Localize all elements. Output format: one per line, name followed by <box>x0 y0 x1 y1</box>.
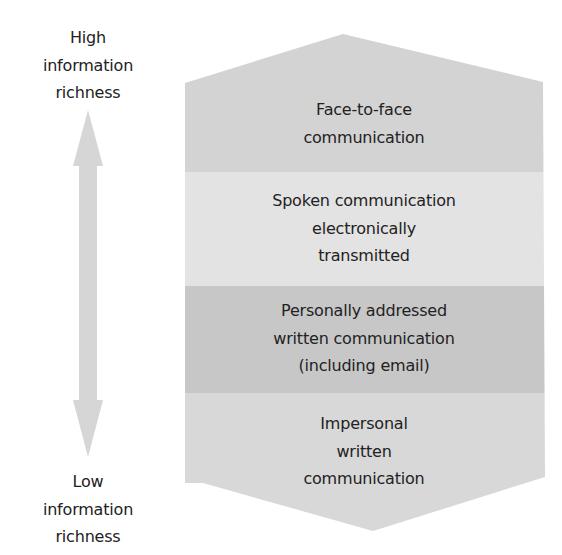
band-4-line-1: Impersonal <box>185 410 543 438</box>
band-label-face-to-face: Face-to-face communication <box>185 96 543 151</box>
band-3-line-1: Personally addressed <box>185 297 543 325</box>
band-label-personally-addressed: Personally addressed written communicati… <box>185 297 543 380</box>
low-richness-line-2: information <box>13 496 163 524</box>
band-4-line-2: written <box>185 438 543 466</box>
band-label-spoken-electronic: Spoken communication electronically tran… <box>185 187 543 270</box>
double-headed-arrow-icon <box>73 110 103 457</box>
band-4-line-3: communication <box>185 465 543 493</box>
high-richness-line-2: information <box>13 52 163 80</box>
high-richness-label: High information richness <box>13 24 163 107</box>
band-label-impersonal-written: Impersonal written communication <box>185 410 543 493</box>
band-3-line-3: (including email) <box>185 352 543 380</box>
information-richness-diagram: High information richness Low informatio… <box>0 0 562 555</box>
high-richness-line-3: richness <box>13 79 163 107</box>
band-2-line-3: transmitted <box>185 242 543 270</box>
band-2-line-1: Spoken communication <box>185 187 543 215</box>
band-3-line-2: written communication <box>185 325 543 353</box>
high-richness-line-1: High <box>13 24 163 52</box>
low-richness-label: Low information richness <box>13 468 163 551</box>
low-richness-line-1: Low <box>13 468 163 496</box>
band-1-line-2: communication <box>185 124 543 152</box>
low-richness-line-3: richness <box>13 523 163 551</box>
band-2-line-2: electronically <box>185 215 543 243</box>
band-1-line-1: Face-to-face <box>185 96 543 124</box>
